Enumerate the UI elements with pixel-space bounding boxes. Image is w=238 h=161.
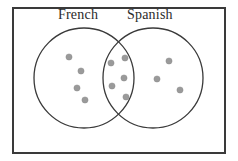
- data-point-dot: [66, 54, 72, 60]
- french-only-dot-group: [66, 54, 88, 103]
- spanish-set-label: Spanish: [127, 8, 173, 22]
- data-point-dot: [108, 60, 114, 66]
- data-point-dot: [177, 87, 183, 93]
- data-point-dot: [154, 76, 160, 82]
- data-point-dot: [78, 68, 84, 74]
- spanish-circle: [103, 28, 203, 128]
- venn-diagram-figure: French Spanish: [0, 0, 238, 161]
- data-point-dot: [123, 94, 129, 100]
- data-point-dot: [122, 55, 128, 61]
- data-point-dot: [121, 75, 127, 81]
- data-point-dot: [82, 97, 88, 103]
- french-circle: [34, 28, 134, 128]
- french-set-label: French: [58, 8, 98, 22]
- spanish-only-dot-group: [154, 58, 183, 93]
- french-and-spanish-dot-group: [108, 55, 129, 100]
- venn-diagram-canvas: [0, 0, 238, 161]
- universal-set-rectangle: [13, 8, 225, 153]
- data-point-dot: [74, 85, 80, 91]
- data-point-dot: [109, 83, 115, 89]
- data-point-dot: [166, 58, 172, 64]
